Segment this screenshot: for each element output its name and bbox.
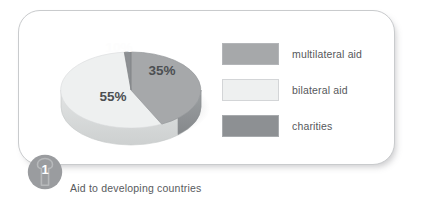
pie-chart: 35% 55% 10% bbox=[57, 28, 212, 146]
badge-number: 1 bbox=[41, 162, 48, 177]
chart-legend: multilateral aid bilateral aid charities bbox=[222, 36, 387, 144]
legend-item-charities: charities bbox=[222, 108, 387, 144]
legend-swatch-bilateral bbox=[222, 79, 279, 101]
legend-item-bilateral: bilateral aid bbox=[222, 72, 387, 108]
legend-swatch-multilateral bbox=[222, 43, 279, 65]
pie-label-multilateral: 35% bbox=[148, 63, 175, 78]
figure-caption: Aid to developing countries bbox=[70, 182, 201, 194]
legend-label-charities: charities bbox=[292, 120, 332, 132]
legend-label-bilateral: bilateral aid bbox=[292, 84, 348, 96]
legend-label-multilateral: multilateral aid bbox=[292, 48, 362, 60]
figure-root: 35% 55% 10% multilateral aid bilateral a… bbox=[0, 0, 421, 210]
pie-label-bilateral: 55% bbox=[99, 89, 126, 104]
figure-number-badge: 1 bbox=[26, 153, 64, 191]
pie-label-charities: 10% bbox=[105, 40, 132, 55]
legend-swatch-charities bbox=[222, 115, 279, 137]
legend-item-multilateral: multilateral aid bbox=[222, 36, 387, 72]
